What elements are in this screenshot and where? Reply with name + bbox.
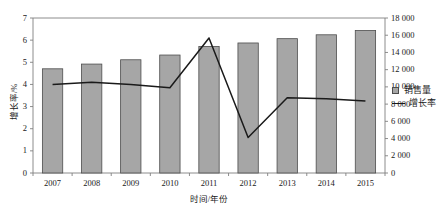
y-axis-right-tick-label: 4 000 xyxy=(391,134,410,143)
y-axis-right-tick-label: 2 000 xyxy=(391,151,410,160)
x-axis-tick-label: 2009 xyxy=(111,179,151,188)
line-swatch-icon xyxy=(392,103,405,104)
square-swatch-icon xyxy=(392,87,399,94)
y-axis-title: 增长率/% xyxy=(10,83,19,119)
y-axis-left-tick-label: 0 xyxy=(23,169,27,178)
legend-item-sales: 销售量 xyxy=(392,84,436,97)
x-axis-tick-label: 2015 xyxy=(345,179,385,188)
x-axis-tick-label: 2011 xyxy=(189,179,229,188)
legend-label-sales: 销售量 xyxy=(404,86,431,95)
x-axis-tick-label: 2014 xyxy=(306,179,346,188)
y-axis-right-tick-label: 0 xyxy=(391,169,395,178)
legend-label-growth: 增长率 xyxy=(409,99,436,108)
x-axis-title: 时间/年份 xyxy=(169,195,249,204)
y-axis-right-tick-label: 18 000 xyxy=(391,14,414,23)
x-axis-tick-label: 2012 xyxy=(228,179,268,188)
y-axis-right-tick-label: 12 000 xyxy=(391,65,414,74)
legend-item-growth: 增长率 xyxy=(392,97,436,110)
x-axis-tick-label: 2008 xyxy=(72,179,112,188)
x-axis-tick-label: 2007 xyxy=(33,179,73,188)
y-axis-left-tick-label: 7 xyxy=(23,14,27,23)
x-axis-tick-label: 2010 xyxy=(150,179,190,188)
y-axis-left-tick-label: 3 xyxy=(23,102,27,111)
y-axis-left-tick-label: 6 xyxy=(23,36,27,45)
y-axis-left-tick-label: 1 xyxy=(23,146,27,155)
x-axis-tick-label: 2013 xyxy=(267,179,307,188)
y-axis-left-tick-label: 4 xyxy=(23,80,27,89)
y-axis-right-tick-label: 14 000 xyxy=(391,48,414,57)
chart-legend: 销售量 增长率 xyxy=(392,84,436,110)
y-axis-left-tick-label: 2 xyxy=(23,124,27,133)
y-axis-left-tick-label: 5 xyxy=(23,58,27,67)
sales-growth-chart: 01234567 02 0004 0006 0008 00010 00012 0… xyxy=(0,0,448,216)
y-axis-right-tick-label: 6 000 xyxy=(391,117,410,126)
y-axis-right-tick-label: 16 000 xyxy=(391,31,414,40)
